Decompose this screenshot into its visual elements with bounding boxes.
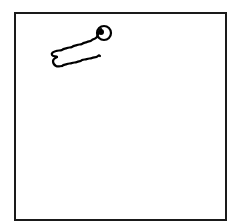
pupil-icon [98,29,104,35]
worm-body-bottom-edge [62,56,100,66]
worm-tail [53,57,62,66]
worm-body-top-edge [52,37,97,57]
sketch-canvas [0,0,233,221]
worm-drawing [0,0,233,221]
